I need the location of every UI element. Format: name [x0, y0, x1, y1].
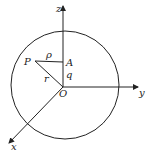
- point-p-label: P: [24, 57, 31, 67]
- point-a-label: A: [66, 58, 73, 68]
- q-label: q: [66, 70, 72, 80]
- sphere-circle: [11, 31, 119, 139]
- x-axis: [9, 87, 63, 143]
- diagram-svg: [0, 0, 156, 154]
- y-axis-label: y: [139, 88, 145, 98]
- z-axis-label: z: [56, 4, 61, 14]
- x-axis-label: x: [11, 142, 17, 152]
- r-label: r: [44, 74, 49, 84]
- r-segment: [35, 61, 63, 87]
- origin-label: O: [59, 89, 67, 99]
- diagram-canvas: z y x O P A ρ r q: [0, 0, 156, 154]
- rho-segment: [35, 61, 63, 62]
- rho-label: ρ: [46, 50, 52, 60]
